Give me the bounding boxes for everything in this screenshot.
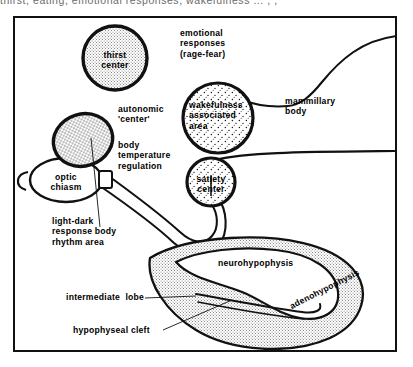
label-emotional-responses: emotional responses (rage-fear) xyxy=(180,28,225,59)
figure-page: thirst, eating, emotional responses, wak… xyxy=(0,0,413,367)
label-mammillary-body: mammillary body xyxy=(285,96,335,117)
label-optic-chiasm: optic chiasm xyxy=(40,172,92,193)
label-autonomic-center: autonomic 'center' xyxy=(118,104,164,125)
label-light-dark-rhythm: light-dark response body rhythm area xyxy=(52,216,116,247)
label-intermediate-lobe: intermediate lobe xyxy=(66,292,144,302)
label-wakefulness-area: wakefulness associated area xyxy=(189,100,243,131)
label-neurohypophysis: neurohypophysis xyxy=(218,258,293,268)
optic-nerve-stub xyxy=(18,172,28,190)
label-body-temperature: body temperature regulation xyxy=(118,140,170,171)
label-thirst-center: thirst center xyxy=(90,50,140,71)
brain-contour-mid xyxy=(214,151,397,160)
chiasm-stalk-joint xyxy=(99,171,112,188)
label-satiety-center: satiety center xyxy=(186,174,236,195)
label-hypophyseal-cleft: hypophyseal cleft xyxy=(73,325,150,335)
